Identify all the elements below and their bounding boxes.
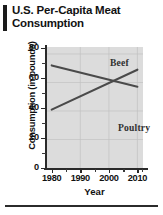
chart-area: Consumption (in pounds)	[0, 38, 163, 190]
y-tick-label-60: 60	[17, 73, 39, 82]
y-tick-minor-70	[42, 63, 46, 64]
y-tick-60	[41, 78, 46, 79]
x-axis-title: Year	[46, 186, 143, 197]
x-tick-minor-1995	[95, 169, 96, 172]
y-tick-label-20: 20	[17, 133, 39, 142]
y-tick-80	[41, 48, 46, 49]
figure-title-row: U.S. Per-Capita Meat Consumption	[3, 4, 160, 31]
x-tick-label-2010: 2010	[122, 174, 152, 184]
x-tick-minor-1985	[66, 169, 67, 172]
x-tick-minor-end	[142, 169, 143, 172]
x-axis-line	[44, 168, 148, 170]
page-title: U.S. Per-Capita Meat Consumption	[12, 4, 152, 29]
plot-panel: Beef Poultry	[46, 47, 143, 168]
series-label-poultry: Poultry	[118, 122, 150, 133]
y-tick-0	[41, 168, 46, 169]
x-tick-label-2000: 2000	[94, 174, 124, 184]
x-tick-minor-2005	[123, 169, 124, 172]
x-tick-label-1980: 1980	[37, 174, 67, 184]
y-tick-minor-10	[42, 153, 46, 154]
x-tick-label-1990: 1990	[65, 174, 95, 184]
y-tick-label-80: 80	[17, 43, 39, 52]
series-label-beef: Beef	[110, 57, 129, 68]
y-tick-label-0: 0	[17, 163, 39, 172]
title-accent-bar	[3, 5, 7, 31]
chart-figure: U.S. Per-Capita Meat Consumption Consump…	[0, 0, 163, 215]
bottom-divider	[5, 205, 158, 207]
y-tick-20	[41, 138, 46, 139]
y-tick-label-40: 40	[17, 103, 39, 112]
y-tick-40	[41, 108, 46, 109]
y-tick-minor-50	[42, 93, 46, 94]
y-tick-minor-30	[42, 123, 46, 124]
